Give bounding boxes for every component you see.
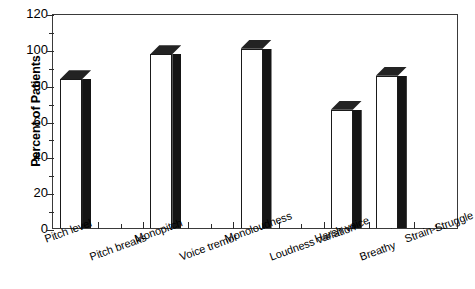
y-tick-label: 40 <box>14 150 48 163</box>
y-tick-major <box>47 51 54 52</box>
bar-front-face <box>60 79 82 228</box>
y-tick-minor <box>49 69 54 70</box>
y-tick-label: 120 <box>14 7 48 20</box>
y-tick-major <box>47 87 54 88</box>
bar-front-face <box>241 49 263 228</box>
bar <box>331 101 362 228</box>
bar-side-face <box>263 49 272 228</box>
plot-area <box>52 14 458 229</box>
x-tick <box>98 222 99 229</box>
bar-front-face <box>376 76 398 228</box>
x-tick <box>188 222 189 229</box>
y-tick-minor <box>49 140 54 141</box>
y-tick-label: 60 <box>14 115 48 128</box>
x-category-label: Breathy <box>358 239 397 263</box>
bar-top-face <box>60 70 91 79</box>
bar-top-face <box>376 67 407 76</box>
y-tick-minor <box>49 33 54 34</box>
bar <box>150 45 181 228</box>
y-tick-minor <box>49 212 54 213</box>
bar <box>241 40 272 228</box>
y-tick-label: 20 <box>14 186 48 199</box>
bar-top-face <box>241 40 272 49</box>
bar <box>376 67 407 228</box>
y-tick-major <box>47 15 54 16</box>
y-tick-minor <box>49 105 54 106</box>
y-tick-major <box>47 158 54 159</box>
bar-side-face <box>172 54 181 228</box>
bar-front-face <box>331 110 353 228</box>
y-tick-major <box>47 194 54 195</box>
x-axis-category-labels: Pitch levelPitch breaksMonopitchVoice tr… <box>0 229 467 289</box>
bar-side-face <box>398 76 407 228</box>
y-tick-minor <box>49 176 54 177</box>
y-tick-major <box>47 123 54 124</box>
bar-top-face <box>150 45 181 54</box>
bar-side-face <box>82 79 91 228</box>
bar-front-face <box>150 54 172 228</box>
x-tick <box>143 222 144 229</box>
y-tick-label: 100 <box>14 43 48 56</box>
bar <box>60 70 91 228</box>
bar-top-face <box>331 101 362 110</box>
bar-side-face <box>353 110 362 228</box>
y-tick-label: 80 <box>14 79 48 92</box>
